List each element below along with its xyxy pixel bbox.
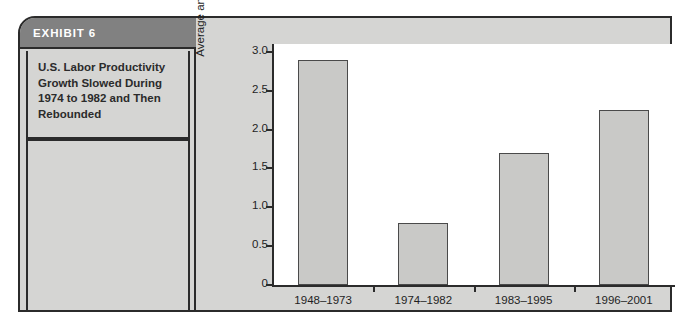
y-tick-mark bbox=[266, 284, 273, 286]
exhibit-caption-text: U.S. Labor Productivity Growth Slowed Du… bbox=[38, 60, 178, 123]
y-tick-mark bbox=[266, 167, 273, 169]
y-tick-label: 1.5 bbox=[252, 160, 268, 172]
y-tick-label: 2.0 bbox=[252, 122, 268, 134]
exhibit-empty-box bbox=[26, 139, 190, 312]
y-tick-label: 0.5 bbox=[252, 238, 268, 250]
y-tick-mark bbox=[266, 245, 273, 247]
y-tick-mark bbox=[266, 51, 273, 53]
y-tick-label: 2.5 bbox=[252, 83, 268, 95]
y-tick-mark bbox=[266, 90, 273, 92]
bar bbox=[298, 60, 348, 285]
exhibit-caption-box: U.S. Labor Productivity Growth Slowed Du… bbox=[26, 51, 190, 139]
x-tick-mark bbox=[474, 285, 476, 292]
caption-column: EXHIBIT 6 U.S. Labor Productivity Growth… bbox=[20, 18, 196, 310]
bar bbox=[499, 153, 549, 285]
x-tick-label: 1996–2001 bbox=[574, 294, 674, 306]
exhibit-frame: EXHIBIT 6 U.S. Labor Productivity Growth… bbox=[18, 16, 672, 312]
x-tick-label: 1983–1995 bbox=[474, 294, 574, 306]
y-tick-mark bbox=[266, 206, 273, 208]
x-tick-mark bbox=[574, 285, 576, 292]
exhibit-number-label: EXHIBIT 6 bbox=[20, 27, 96, 39]
x-tick-mark bbox=[373, 285, 375, 292]
y-tick-label: 0 bbox=[262, 277, 268, 289]
y-axis-title: Average annual growth (percent) bbox=[194, 0, 214, 88]
y-tick-label: 3.0 bbox=[252, 44, 268, 56]
exhibit-header-band: EXHIBIT 6 bbox=[20, 18, 196, 49]
x-tick-label: 1948–1973 bbox=[273, 294, 373, 306]
x-tick-label: 1974–1982 bbox=[373, 294, 473, 306]
y-tick-mark bbox=[266, 129, 273, 131]
bar-series bbox=[273, 44, 674, 285]
chart-panel: Average annual growth (percent) 00.51.01… bbox=[198, 18, 670, 310]
bar bbox=[398, 223, 448, 285]
y-tick-label: 1.0 bbox=[252, 199, 268, 211]
bar bbox=[599, 110, 649, 285]
